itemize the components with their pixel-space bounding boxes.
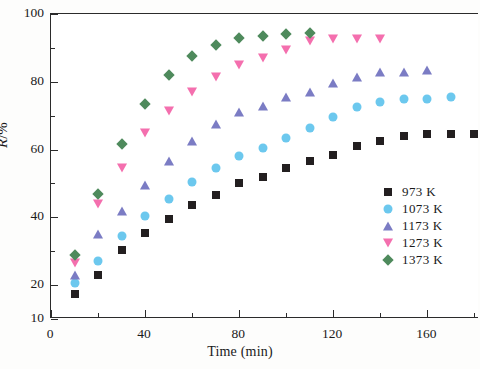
data-point: [164, 194, 173, 203]
data-point: [376, 137, 384, 145]
data-point: [210, 39, 221, 50]
legend-marker: [378, 236, 398, 250]
data-point: [70, 279, 79, 288]
data-point: [282, 133, 291, 142]
data-points: [51, 14, 478, 317]
data-point: [305, 87, 315, 96]
x-axis-tick-label: 0: [30, 326, 70, 342]
data-point: [70, 270, 80, 279]
data-point: [165, 215, 173, 223]
legend-label: 973 K: [398, 184, 436, 200]
data-point: [164, 106, 174, 115]
x-axis-tick: [380, 313, 381, 317]
triangle-down-marker-icon: [383, 238, 393, 247]
y-axis-tick-label: 60: [4, 141, 44, 157]
data-point: [187, 87, 197, 96]
data-point: [257, 30, 268, 41]
chart-figure: R/% 102040608010004080120160 Time (min) …: [0, 0, 480, 369]
data-point: [92, 188, 103, 199]
x-axis-tick: [286, 313, 287, 317]
data-point: [71, 290, 79, 298]
square-marker-icon: [384, 188, 392, 196]
data-point: [352, 35, 362, 44]
legend-label: 1273 K: [398, 235, 443, 251]
legend-label: 1373 K: [398, 252, 443, 268]
axis-ticks: [51, 14, 478, 317]
data-point: [234, 60, 244, 69]
y-axis-tick: [51, 82, 58, 83]
data-point: [423, 94, 432, 103]
data-point: [93, 199, 103, 208]
data-point: [118, 246, 126, 254]
data-point: [164, 157, 174, 166]
y-axis-tick: [51, 150, 58, 151]
data-point: [328, 35, 338, 44]
data-point: [139, 98, 150, 109]
legend-marker: [378, 185, 398, 199]
plot-area: [50, 13, 478, 318]
data-point: [163, 69, 174, 80]
legend-marker: [378, 253, 398, 267]
legend-item: 1373 K: [378, 251, 478, 268]
data-point: [188, 201, 196, 209]
data-point: [258, 54, 268, 63]
x-axis-tick: [192, 313, 193, 317]
y-axis-tick-label: 20: [4, 276, 44, 292]
data-point: [446, 93, 455, 102]
data-point: [376, 98, 385, 107]
x-axis-tick: [239, 310, 240, 317]
diamond-marker-icon: [382, 254, 393, 265]
data-point: [93, 230, 103, 239]
data-point: [447, 130, 455, 138]
data-point: [399, 67, 409, 76]
x-axis-tick: [98, 313, 99, 317]
x-axis-tick: [333, 310, 334, 317]
y-axis-tick: [51, 319, 58, 320]
data-point: [233, 32, 244, 43]
y-axis-tick: [51, 183, 55, 184]
data-point: [258, 143, 267, 152]
data-point: [352, 72, 362, 81]
data-point: [375, 67, 385, 76]
data-point: [141, 229, 149, 237]
x-axis-tick: [474, 313, 475, 317]
x-axis-tick: [427, 310, 428, 317]
data-point: [117, 206, 127, 215]
y-axis-tick-label: 10: [4, 310, 44, 326]
data-point: [281, 93, 291, 102]
data-point: [188, 177, 197, 186]
data-point: [117, 164, 127, 173]
legend-marker: [378, 202, 398, 216]
legend-item: 1273 K: [378, 234, 478, 251]
y-axis-tick: [51, 251, 55, 252]
data-point: [186, 51, 197, 62]
legend-label: 1173 K: [398, 218, 443, 234]
data-point: [304, 27, 315, 38]
data-point: [235, 152, 244, 161]
data-point: [70, 259, 80, 268]
data-point: [399, 94, 408, 103]
x-axis-tick: [145, 310, 146, 317]
data-point: [470, 130, 478, 138]
data-point: [211, 72, 221, 81]
x-axis-tick-label: 80: [218, 326, 258, 342]
data-point: [375, 35, 385, 44]
data-point: [422, 65, 432, 74]
data-point: [329, 113, 338, 122]
data-point: [211, 120, 221, 129]
data-point: [69, 249, 80, 260]
data-point: [141, 211, 150, 220]
y-axis-unit: /%: [0, 122, 10, 139]
x-axis-tick-label: 160: [406, 326, 446, 342]
data-point: [94, 257, 103, 266]
data-point: [187, 137, 197, 146]
data-point: [306, 157, 314, 165]
y-axis-tick-label: 40: [4, 208, 44, 224]
legend-item: 973 K: [378, 183, 478, 200]
data-point: [352, 103, 361, 112]
data-point: [423, 130, 431, 138]
data-point: [400, 132, 408, 140]
data-point: [117, 231, 126, 240]
data-point: [211, 164, 220, 173]
legend-label: 1073 K: [398, 201, 443, 217]
